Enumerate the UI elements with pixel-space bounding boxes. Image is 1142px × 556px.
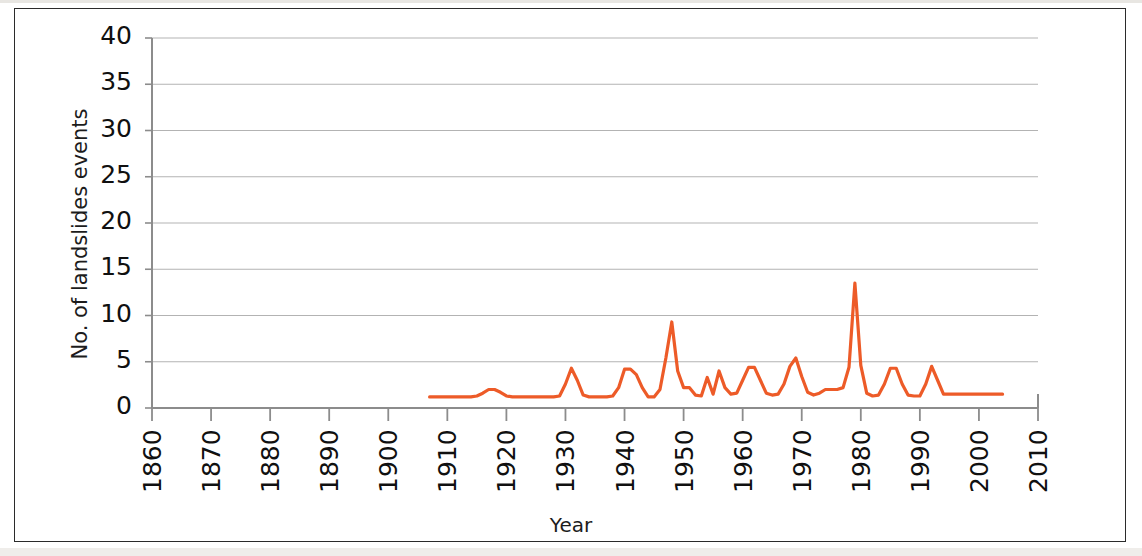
x-tick-label: 2000 — [967, 429, 992, 493]
x-tick-label: 1880 — [258, 429, 283, 493]
y-tick-label: 0 — [72, 393, 132, 418]
x-tick-label: 1910 — [435, 429, 460, 493]
y-axis-title: No. of landslides events — [68, 94, 92, 374]
x-tick-label: 1890 — [317, 429, 342, 493]
figure-container: 0510152025303540 18601870188018901900191… — [0, 0, 1142, 556]
series-line — [430, 283, 1003, 397]
x-tick-label: 1930 — [553, 429, 578, 493]
x-tick-label: 1970 — [790, 429, 815, 493]
y-tick-label: 40 — [72, 23, 132, 48]
data-series-group — [430, 283, 1003, 397]
x-tick-label: 1940 — [613, 429, 638, 493]
x-tick-marks-group — [152, 408, 1038, 421]
x-tick-label: 1920 — [494, 429, 519, 493]
x-tick-label: 1900 — [376, 429, 401, 493]
x-tick-label: 2010 — [1026, 429, 1051, 493]
y-tick-label: 35 — [72, 69, 132, 94]
x-tick-label: 1860 — [140, 429, 165, 493]
x-tick-label: 1870 — [199, 429, 224, 493]
x-tick-label: 1980 — [849, 429, 874, 493]
x-axis-title: Year — [0, 513, 1142, 537]
x-tick-label: 1950 — [672, 429, 697, 493]
gridlines-group — [152, 38, 1038, 408]
x-tick-label: 1990 — [908, 429, 933, 493]
x-tick-label: 1960 — [731, 429, 756, 493]
